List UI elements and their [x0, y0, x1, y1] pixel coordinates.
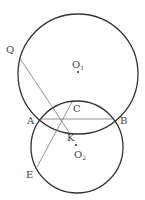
label-o1-main: O: [72, 59, 80, 70]
label-a: A: [26, 115, 35, 126]
label-e: E: [26, 169, 33, 180]
label-o1-sub: 1: [80, 64, 84, 71]
label-o2-main: O: [74, 149, 82, 160]
circle-o2: [31, 101, 123, 193]
label-q: Q: [6, 44, 14, 55]
label-k: K: [67, 132, 75, 143]
label-c: C: [73, 103, 81, 114]
center-dot-o2: [75, 144, 77, 146]
center-dot-o1: [77, 71, 79, 73]
label-o2-sub: 2: [82, 154, 86, 161]
label-o2: O2: [74, 149, 86, 161]
label-b: B: [120, 115, 127, 126]
label-o1: O1: [72, 59, 84, 71]
geometry-diagram: Q A B C K E O1 O2: [0, 0, 145, 200]
